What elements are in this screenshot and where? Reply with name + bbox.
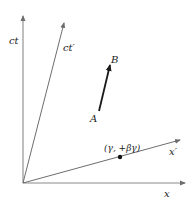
ct-axis-label: ct (9, 35, 20, 46)
ab-vector-arrow (99, 65, 110, 111)
ct-prime-axis (23, 23, 64, 183)
x-axis-label: x (164, 188, 170, 199)
ct-prime-axis-label: ct′ (63, 42, 76, 53)
vector-start-label-a: A (89, 113, 97, 124)
vector-end-label-b: B (110, 54, 118, 65)
x-prime-axis (23, 140, 180, 183)
spacetime-diagram: ct ct′ x x′ A B (γ, +βγ) (0, 0, 194, 206)
event-point-dot (118, 155, 122, 159)
x-prime-axis-label: x′ (169, 146, 178, 157)
event-point-label: (γ, +βγ) (104, 143, 141, 153)
